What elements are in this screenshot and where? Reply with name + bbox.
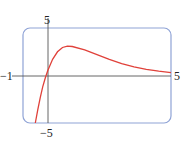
y-min-label: −5 [40, 127, 53, 139]
graph-canvas [0, 0, 191, 142]
function-curve [35, 46, 171, 123]
x-min-label: −1 [0, 70, 13, 82]
viewing-window-frame [23, 28, 171, 123]
y-max-label: 5 [44, 14, 50, 26]
x-max-label: 5 [174, 70, 180, 82]
